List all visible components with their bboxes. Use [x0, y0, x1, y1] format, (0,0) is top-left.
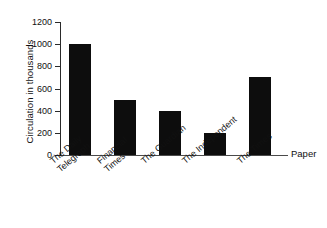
y-tick-label-1200: 1200	[12, 18, 52, 27]
y-tick-1000	[55, 44, 61, 45]
y-tick-label-600: 600	[12, 85, 52, 94]
y-tick-800	[55, 66, 61, 67]
x-axis-title: Paper	[291, 148, 316, 159]
y-tick-label-200: 200	[12, 129, 52, 138]
bar-chart: Circulation in thousands 0 200 400 600 8…	[0, 0, 327, 228]
y-tick-label-800: 800	[12, 62, 52, 71]
y-tick-label-1000: 1000	[12, 40, 52, 49]
y-tick-1200	[55, 22, 61, 23]
y-tick-label-400: 400	[12, 107, 52, 116]
y-tick-600	[55, 89, 61, 90]
x-tick-label-the-independent: The Independent	[180, 114, 239, 166]
y-tick-400	[55, 111, 61, 112]
y-tick-label-0: 0	[12, 151, 52, 160]
y-tick-200	[55, 133, 61, 134]
x-label-line-1: The Independent	[180, 114, 239, 166]
